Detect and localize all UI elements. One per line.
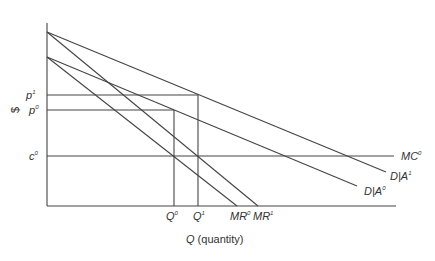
y-axis-title: $ (9, 107, 21, 113)
q1-label: Q1 (193, 210, 205, 222)
mr-curve-0 (47, 57, 237, 206)
mr-curve-1 (47, 32, 258, 206)
c0-label: c0 (29, 150, 39, 162)
demand-curve-a0 (47, 57, 357, 186)
demand-curve-a1 (47, 32, 386, 172)
demand-a0-label: D|A0 (364, 185, 386, 197)
q0-label: Q0 (166, 210, 179, 222)
mc-label: MC0 (401, 150, 422, 162)
demand-a1-label: D|A1 (390, 170, 411, 182)
mr1-label: MR1 (253, 210, 273, 222)
mr0-label: MR0 (230, 210, 251, 222)
x-axis-title: Q (quantity) (186, 233, 243, 245)
demand-advertising-diagram: p1 p0 c0 $ Q0 Q1 MR0 MR1 Q (quantity) MC… (0, 0, 435, 261)
p0-label: p0 (28, 104, 39, 116)
p1-label: p1 (25, 89, 35, 101)
